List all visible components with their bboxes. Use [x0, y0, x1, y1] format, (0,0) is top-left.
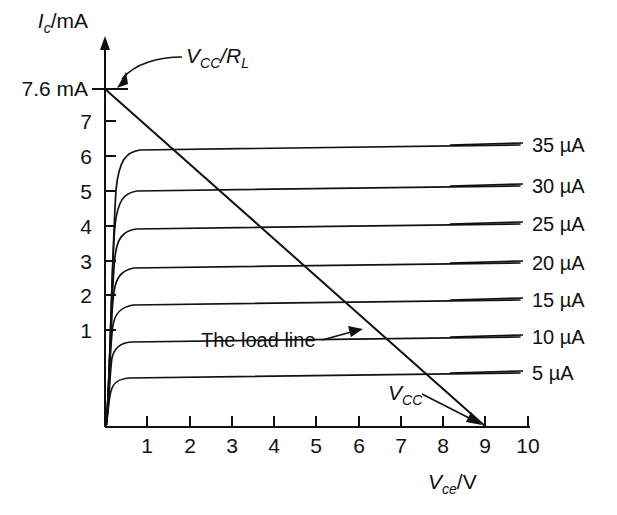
- vcc-rl-arrowhead: [117, 72, 128, 88]
- x-tick-label-5: 5: [310, 434, 322, 457]
- x-tick-label-7: 7: [395, 434, 407, 457]
- y-tick-label-2: 2: [80, 284, 92, 307]
- x-tick-label-1: 1: [141, 434, 153, 457]
- curve-5ua: [106, 373, 520, 427]
- x-tick-label-4: 4: [268, 434, 280, 457]
- vcc-sub: CC: [402, 392, 423, 408]
- y-tick-label-3: 3: [80, 250, 92, 273]
- series-label-30ua: 30 µA: [532, 175, 585, 197]
- svg-text:Ic/mA: Ic/mA: [38, 9, 88, 36]
- y-tick-label-5: 5: [80, 180, 92, 203]
- y-axis-label-7-6-ma: 7.6 mA: [21, 77, 88, 100]
- vcc-arrowhead: [466, 412, 482, 425]
- vcc-rl-sub2: L: [241, 55, 249, 71]
- x-axis-tick-labels: 1 2 3 4 5 6 7 8 9 10: [141, 434, 540, 457]
- y-axis-title: Ic/mA: [38, 9, 88, 36]
- series-label-35ua: 35 µA: [532, 134, 585, 156]
- y-tick-label-7: 7: [80, 110, 92, 133]
- x-axis-title-unit: /V: [457, 470, 477, 493]
- vcc-over-rl-label: VCC/RL: [186, 44, 249, 71]
- x-tick-label-9: 9: [479, 434, 491, 457]
- vcc-label: VCC: [388, 381, 423, 408]
- curve-15ua: [106, 300, 520, 427]
- curve-25ua: [106, 224, 520, 427]
- figure-container: Ic/mA Vce/V 7.6 mA 1 2 3 4 5 6 7 1 2 3 4…: [0, 0, 617, 515]
- load-line-arrowhead: [348, 326, 363, 337]
- series-label-10ua: 10 µA: [532, 326, 585, 348]
- y-tick-label-4: 4: [80, 215, 92, 238]
- vcc-rl-sub: CC: [200, 55, 221, 71]
- y-axis-title-unit: /mA: [51, 9, 88, 32]
- series-label-20ua: 20 µA: [532, 252, 585, 274]
- y-tick-label-6: 6: [80, 145, 92, 168]
- x-tick-label-8: 8: [437, 434, 449, 457]
- y-axis-tick-labels: 1 2 3 4 5 6 7: [80, 110, 92, 342]
- characteristic-curves-chart: Ic/mA Vce/V 7.6 mA 1 2 3 4 5 6 7 1 2 3 4…: [0, 0, 617, 515]
- series-label-5ua: 5 µA: [532, 362, 574, 384]
- series-label-25ua: 25 µA: [532, 213, 585, 235]
- x-tick-label-10: 10: [516, 434, 539, 457]
- series-label-15ua: 15 µA: [532, 289, 585, 311]
- vcc-leader-line: [422, 394, 473, 420]
- y-axis-title-sub: c: [44, 20, 51, 36]
- load-line-annotation: The load line: [201, 329, 316, 351]
- vcc-rl-leader-line: [122, 57, 182, 79]
- y-tick-label-1: 1: [80, 319, 92, 342]
- x-tick-label-2: 2: [184, 434, 196, 457]
- y-axis-arrowhead: [100, 36, 110, 50]
- x-axis-title: Vce/V: [428, 470, 477, 497]
- x-axis-title-sub: ce: [442, 481, 457, 497]
- series-labels: 35 µA 30 µA 25 µA 20 µA 15 µA 10 µA 5 µA: [532, 134, 585, 384]
- vcc-rl-div: /R: [218, 44, 241, 67]
- svg-text:Vce/V: Vce/V: [428, 470, 477, 497]
- curve-30ua: [106, 186, 520, 427]
- x-tick-label-3: 3: [226, 434, 238, 457]
- x-tick-label-6: 6: [353, 434, 365, 457]
